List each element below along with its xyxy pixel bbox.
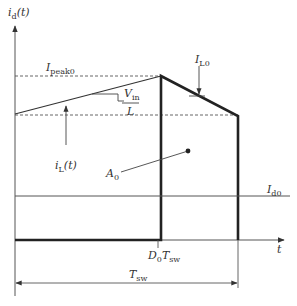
il0-label: IL0 <box>194 53 210 68</box>
diagram-canvas: id(t) Ipeak0 Vin L IL0 iL(t) A0 Id0 t D0… <box>0 0 297 306</box>
slope-denominator-label: L <box>126 105 134 118</box>
id0-label: Id0 <box>266 183 282 198</box>
d0tsw-label: D0Tsw <box>147 249 180 264</box>
waveform-diagram: id(t) Ipeak0 Vin L IL0 iL(t) A0 Id0 t D0… <box>0 0 297 306</box>
t-axis-label: t <box>277 243 282 256</box>
area-pointer <box>121 151 188 172</box>
y-axis-label: id(t) <box>8 6 30 21</box>
area-dot <box>186 149 191 154</box>
i-peak-label: Ipeak0 <box>45 61 75 76</box>
area-label: A0 <box>105 167 119 182</box>
diode-current-waveform <box>15 76 238 240</box>
slope-numerator-label: Vin <box>124 87 140 102</box>
tsw-label: Tsw <box>129 268 147 283</box>
slope-triangle <box>92 94 124 101</box>
il-t-label: iL(t) <box>55 159 77 174</box>
